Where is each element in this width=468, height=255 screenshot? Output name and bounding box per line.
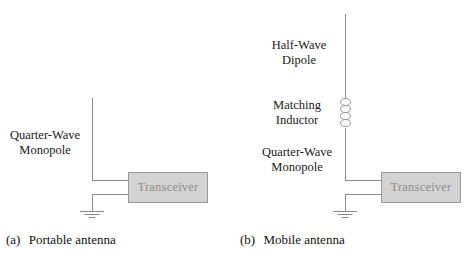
monopole-radiator-line: [92, 98, 93, 181]
antenna-feed-wire: [92, 180, 129, 181]
ground-lead-vertical: [92, 194, 93, 211]
ground-bar-2: [85, 214, 100, 215]
antenna-feed-wire: [345, 180, 382, 181]
caption-tag: (a): [6, 232, 20, 247]
label-line-2: Inductor: [258, 113, 336, 128]
label-line-1: Half-Wave: [258, 38, 340, 53]
label-line-2: Monopole: [254, 160, 340, 175]
ground-bar-3: [89, 217, 96, 218]
label-line-1: Quarter-Wave: [4, 128, 86, 143]
ground-lead-vertical: [345, 194, 346, 211]
inductor-loop-4: [340, 119, 351, 127]
matching-inductor-coil: [340, 98, 351, 128]
caption-panel-a: (a) Portable antenna: [6, 232, 116, 248]
ground-lead-horizontal: [345, 194, 382, 195]
caption-tag: (b): [240, 232, 255, 247]
dipole-upper-line: [345, 14, 346, 98]
label-quarter-wave-monopole: Quarter-Wave Monopole: [254, 145, 340, 175]
panel-mobile-antenna: Transceiver Half-Wave Dipole Matching In…: [234, 0, 468, 255]
transceiver-box: Transceiver: [381, 172, 461, 203]
ground-bar-2: [338, 214, 353, 215]
antenna-figure: Transceiver Quarter-Wave Monopole (a) Po…: [0, 0, 468, 255]
transceiver-box: Transceiver: [128, 172, 208, 203]
label-line-1: Matching: [258, 98, 336, 113]
ground-lead-horizontal: [92, 194, 129, 195]
caption-panel-b: (b) Mobile antenna: [240, 232, 345, 248]
panel-portable-antenna: Transceiver Quarter-Wave Monopole (a) Po…: [0, 0, 234, 255]
label-quarter-wave-monopole: Quarter-Wave Monopole: [4, 128, 86, 158]
label-half-wave-dipole: Half-Wave Dipole: [258, 38, 340, 68]
label-line-2: Monopole: [4, 143, 86, 158]
label-line-2: Dipole: [258, 53, 340, 68]
transceiver-label: Transceiver: [391, 180, 452, 195]
caption-text: Portable antenna: [29, 232, 116, 247]
ground-bar-1: [333, 211, 357, 212]
ground-bar-1: [80, 211, 104, 212]
label-matching-inductor: Matching Inductor: [258, 98, 336, 128]
monopole-lower-line: [345, 128, 346, 181]
ground-bar-3: [342, 217, 349, 218]
label-line-1: Quarter-Wave: [254, 145, 340, 160]
transceiver-label: Transceiver: [138, 180, 199, 195]
caption-text: Mobile antenna: [263, 232, 344, 247]
